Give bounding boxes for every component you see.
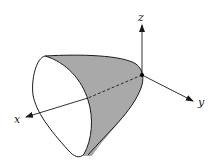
y-axis-label: y [197, 96, 205, 109]
paraboloid-diagram: z y x [0, 0, 215, 166]
y-axis [142, 75, 193, 101]
origin-point [140, 73, 144, 77]
z-axis-label: z [137, 11, 144, 24]
x-axis-label: x [14, 113, 21, 126]
